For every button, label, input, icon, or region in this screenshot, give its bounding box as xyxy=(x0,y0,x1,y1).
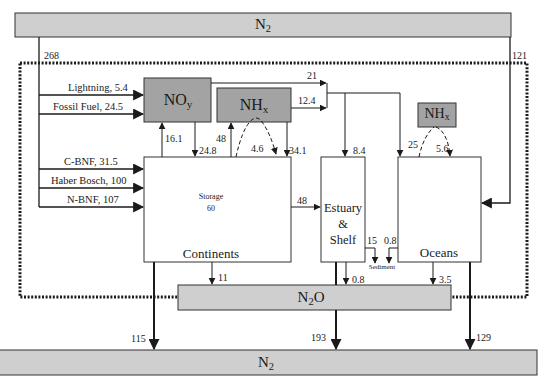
atmosphere-n2-top-label: N2 xyxy=(255,17,271,32)
flow-estuary-to-n2: 193 xyxy=(311,333,326,343)
n2-top-sub: 2 xyxy=(266,23,271,34)
n2o-tail: O xyxy=(314,289,325,305)
flow-estuary-to-sediment: 15 xyxy=(367,236,377,246)
flow-ocean-nhx-up: 25 xyxy=(408,140,418,150)
flow-ocean-nhx-down: 5.6 xyxy=(436,144,449,154)
flow-land-to-nhx: 48 xyxy=(216,134,226,144)
noy-label: NOy xyxy=(164,92,193,108)
nhx-land-sub: x xyxy=(263,103,269,115)
noy-sub: y xyxy=(187,98,193,110)
ocean-nhx-up-dashed xyxy=(419,127,434,157)
source-n-bnf-label: N-BNF, 107 xyxy=(67,195,119,206)
nhx-land-label: NHx xyxy=(240,97,269,113)
flow-land-to-n2: 115 xyxy=(131,334,146,344)
estuary-line1: Estuary xyxy=(324,202,362,215)
ocean-to-sediment-arrow xyxy=(389,248,398,263)
n2-bottom-main: N xyxy=(258,354,269,370)
estuary-line2: & xyxy=(338,218,348,231)
noy-main: NO xyxy=(164,91,187,108)
source-c-bnf-label: C-BNF, 31.5 xyxy=(64,157,118,168)
flow-noy-to-sea: 21 xyxy=(307,71,317,81)
n2-bottom-sub: 2 xyxy=(269,361,274,372)
sediment-label: Sediment xyxy=(369,264,395,271)
oceans-label: Oceans xyxy=(420,246,458,259)
flow-n2-to-land: 268 xyxy=(44,51,59,61)
estuary-to-sediment-arrow xyxy=(365,248,375,263)
continents-label: Continents xyxy=(183,247,239,260)
flow-ocean-to-n2: 129 xyxy=(476,333,491,343)
flow-nhx-to-sea: 12.4 xyxy=(298,96,316,106)
source-haber-bosch-label: Haber Bosch, 100 xyxy=(51,176,127,187)
flow-atm-to-estuary: 8.4 xyxy=(353,146,366,156)
source-fossil-fuel-label: Fossil Fuel, 24.5 xyxy=(53,102,123,113)
n2o-main: N xyxy=(298,289,309,305)
nhx-ocean-main: NH xyxy=(424,106,444,121)
continents-storage-label: Storage xyxy=(199,193,223,201)
flow-ocean-to-sediment: 0.8 xyxy=(384,236,397,246)
flow-land-to-n2o: 11 xyxy=(218,273,228,283)
flow-n2-to-ocean: 121 xyxy=(512,51,527,61)
continents-storage-value: 60 xyxy=(207,205,215,213)
nhx-ocean-label: NHx xyxy=(424,107,449,121)
atmosphere-n2-bottom-label: N2 xyxy=(258,355,274,370)
flow-noy-to-land: 24.8 xyxy=(199,146,217,156)
nhx-land-main: NH xyxy=(240,96,263,113)
nhx-ocean-sub: x xyxy=(445,111,450,122)
flow-land-to-estuary: 48 xyxy=(297,196,307,206)
flow-nhx-to-land: 34.1 xyxy=(289,146,307,156)
flow-land-to-noy: 16.1 xyxy=(165,134,183,144)
nitrogen-cycle-diagram xyxy=(0,0,546,385)
source-lightning-label: Lightning, 5.4 xyxy=(68,83,128,94)
flow-nhx-recycle: 4.6 xyxy=(251,144,264,154)
flow-ocean-to-n2o: 3.5 xyxy=(439,275,452,285)
estuary-line3: Shelf xyxy=(330,234,356,247)
n2o-label: N2O xyxy=(298,290,325,305)
n2-top-main: N xyxy=(255,16,266,32)
flow-estuary-to-n2o: 0.8 xyxy=(352,275,365,285)
